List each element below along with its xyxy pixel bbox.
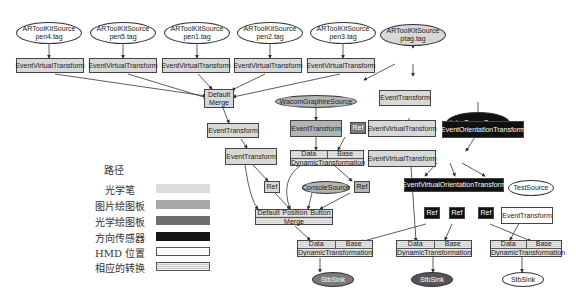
event-virtual-orientation-transform[interactable]: EventVirtualOrientationTransform — [404, 178, 504, 192]
legend-swatch — [156, 247, 210, 256]
merge-position: Position — [283, 209, 308, 217]
test-source[interactable]: TestSource — [508, 180, 554, 196]
dyn-base-label: Base — [527, 240, 562, 248]
legend-label: 方向传感器 — [80, 230, 160, 245]
dyn-label: DynamicTransformation — [397, 249, 471, 257]
event-orientation-transform[interactable]: EventOrientationTransform — [442, 121, 524, 138]
legend-swatch — [156, 184, 210, 193]
dyn-label: DynamicTransformation — [298, 249, 372, 257]
source-tag: ptag.tag — [400, 35, 425, 43]
stb-sink-1[interactable]: StbSink — [312, 272, 354, 287]
legend-title: 路径 — [104, 162, 124, 177]
source-label: ARToolKitSource — [387, 27, 440, 35]
console-source[interactable]: ConsoleSource — [302, 181, 350, 194]
merge-line1: Default — [208, 91, 230, 99]
event-transform-2[interactable]: EventTransform — [225, 148, 277, 165]
ref-dark[interactable]: Ref — [350, 122, 366, 134]
legend-swatch — [156, 200, 210, 209]
legend-swatch — [156, 232, 210, 241]
default-merge[interactable]: DefaultMerge — [204, 89, 234, 108]
ref-black-3[interactable]: Ref — [478, 207, 494, 219]
source-pen1[interactable]: ARToolKitSourcepen1.tag — [164, 22, 230, 44]
event-transform-test[interactable]: EventTransform — [501, 207, 553, 224]
merge3-label: Merge — [284, 218, 304, 226]
source-pen4[interactable]: ARToolKitSourcepen4.tag — [16, 22, 82, 44]
dynamic-transformation-wacom[interactable]: DataBaseDynamicTransformation — [290, 150, 364, 166]
evt-ptag[interactable]: EventVirtualTransform — [368, 120, 436, 137]
legend-label: 图片绘图板 — [80, 198, 160, 213]
evt-pen3[interactable]: EventVirtualTransform — [307, 58, 375, 73]
dyn-data-label: Data — [291, 150, 328, 158]
default-position-button-merge[interactable]: DefaultPositionButtonMerge — [255, 209, 333, 225]
evt-pen5[interactable]: EventVirtualTransform — [89, 58, 157, 73]
source-label: ARToolKitSource — [97, 25, 150, 33]
source-tag: pen3.tag — [329, 33, 356, 41]
source-tag: pen4.tag — [35, 33, 62, 41]
legend-label: 相应的转换 — [80, 260, 160, 275]
dyn-label: DynamicTransformation — [291, 159, 363, 167]
dynamic-transformation-3[interactable]: DataBaseDynamicTransformation — [490, 240, 562, 257]
source-label: ARToolKitSource — [317, 25, 370, 33]
source-label: ARToolKitSource — [171, 25, 224, 33]
dyn-label: DynamicTransformation — [491, 249, 561, 257]
dynamic-transformation-1[interactable]: DataBaseDynamicTransformation — [297, 240, 373, 257]
source-pen2[interactable]: ARToolKitSourcepen2.tag — [237, 22, 303, 44]
legend-swatch — [156, 262, 210, 271]
source-tag: pen5.tag — [109, 33, 136, 41]
wacom-graphire-source[interactable]: WacomGraphireSource — [275, 95, 357, 108]
dyn-data-label: Data — [397, 240, 435, 248]
dyn-base-label: Base — [435, 240, 472, 248]
ref-black-2[interactable]: Ref — [449, 207, 465, 219]
event-transform-wacom[interactable]: EventTransform — [290, 120, 342, 137]
source-tag: pen2.tag — [256, 33, 283, 41]
legend-label: 光学绘图板 — [80, 214, 160, 229]
source-label: ARToolKitSource — [23, 25, 76, 33]
legend-label: 光学笔 — [80, 182, 160, 197]
source-pen3[interactable]: ARToolKitSourcepen3.tag — [310, 22, 376, 44]
legend-label: HMD 位置 — [80, 245, 160, 260]
evt-pen4[interactable]: EventVirtualTransform — [16, 58, 84, 73]
source-tag: pen1.tag — [183, 33, 210, 41]
dyn-data-label: Data — [298, 240, 336, 248]
merge-button: Button — [310, 209, 330, 217]
evt-pen2[interactable]: EventVirtualTransform — [234, 58, 302, 73]
stb-sink-3[interactable]: StbSink — [502, 272, 544, 287]
source-label: ARToolKitSource — [244, 25, 297, 33]
stb-sink-2[interactable]: StbSink — [411, 272, 453, 287]
dyn-base-label: Base — [336, 240, 373, 248]
event-transform-ptag[interactable]: EventTransform — [379, 90, 431, 106]
dyn-base-label: Base — [328, 150, 364, 158]
event-transform-1[interactable]: EventTransform — [207, 123, 259, 138]
merge-line2: Merge — [209, 99, 229, 107]
source-ptag[interactable]: ARToolKitSourceptag.tag — [380, 24, 446, 46]
legend-swatch — [156, 216, 210, 225]
evt-ptag-2[interactable]: EventVirtualTransform — [368, 150, 436, 167]
ref-mid[interactable]: Ref — [354, 181, 370, 193]
evt-pen1[interactable]: EventVirtualTransform — [162, 58, 230, 73]
dyn-data-label: Data — [491, 240, 527, 248]
source-pen5[interactable]: ARToolKitSourcepen5.tag — [90, 22, 156, 44]
dynamic-transformation-2[interactable]: DataBaseDynamicTransformation — [396, 240, 472, 257]
ref-black-1[interactable]: Ref — [424, 207, 440, 219]
merge-default: Default — [257, 209, 279, 217]
ref-light-1[interactable]: Ref — [264, 181, 280, 193]
